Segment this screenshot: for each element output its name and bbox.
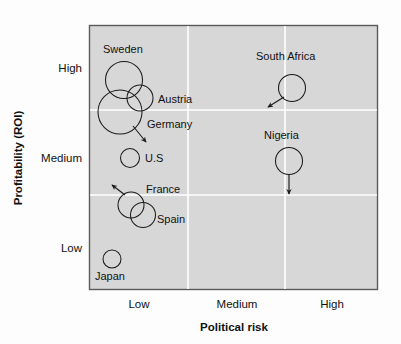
bubble-label-spain: Spain xyxy=(157,213,185,225)
bubble-label-nigeria: Nigeria xyxy=(264,129,300,141)
y-tick-low: Low xyxy=(61,242,83,254)
bubble-label-sweden: Sweden xyxy=(103,43,143,55)
bubble-label-japan: Japan xyxy=(95,270,125,282)
x-tick-high: High xyxy=(320,298,344,310)
figure-container: Sweden Germany Austria U.S France Spain xyxy=(0,0,401,344)
bubble-label-austria: Austria xyxy=(158,93,193,105)
bubble-label-france: France xyxy=(146,183,180,195)
bubble-label-us: U.S xyxy=(145,152,163,164)
x-tick-low: Low xyxy=(128,298,150,310)
bubble-label-germany: Germany xyxy=(147,118,193,130)
y-tick-medium: Medium xyxy=(41,152,82,164)
plot-area-background xyxy=(90,26,378,290)
bubble-label-south-africa: South Africa xyxy=(256,50,316,62)
bubble-chart: Sweden Germany Austria U.S France Spain xyxy=(0,0,401,344)
y-tick-high: High xyxy=(58,62,82,74)
x-tick-medium: Medium xyxy=(217,298,258,310)
x-axis-tick-labels: Low Medium High xyxy=(128,298,343,310)
x-axis-title: Political risk xyxy=(200,321,268,333)
y-axis-title: Profitability (ROI) xyxy=(12,111,24,206)
y-axis-tick-labels: High Medium Low xyxy=(41,62,83,254)
